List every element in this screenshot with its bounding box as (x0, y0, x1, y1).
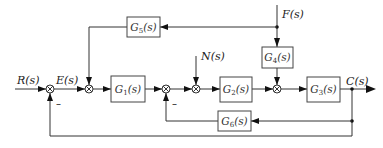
block-g1: G1(s) (111, 76, 145, 102)
arrow-icon (163, 93, 169, 101)
summing-junction-5 (273, 85, 281, 93)
svg-text:G5(s): G5(s) (130, 21, 156, 35)
arrow-icon (193, 77, 199, 85)
arrow-icon (47, 93, 53, 101)
svg-text:G3(s): G3(s) (310, 83, 336, 97)
arrow-icon (154, 86, 162, 92)
arrow-icon (274, 77, 280, 85)
arrow-icon (299, 86, 307, 92)
input-label: R(s) (16, 74, 40, 87)
arrow-icon (86, 77, 92, 85)
svg-text:G4(s): G4(s) (264, 51, 290, 65)
arrow-icon (160, 24, 168, 30)
summing-junction-2 (85, 85, 93, 93)
arrow-icon (265, 86, 273, 92)
minus-sign: – (172, 98, 177, 109)
block-g2: G2(s) (220, 77, 252, 102)
summing-junction-1 (46, 85, 54, 93)
arrow-icon (212, 86, 220, 92)
arrow-icon (251, 118, 259, 124)
summing-junction-4 (192, 85, 200, 93)
block-g3: G3(s) (307, 77, 340, 102)
arrow-icon (103, 86, 111, 92)
minus-sign: – (56, 98, 61, 109)
error-label: E(s) (55, 74, 78, 87)
arrow-icon (184, 86, 192, 92)
block-g4: G4(s) (262, 47, 293, 68)
summing-junction-3 (162, 85, 170, 93)
block-g6: G6(s) (218, 111, 251, 131)
disturbance-f-label: F(s) (281, 8, 304, 21)
block-diagram: G1(s) G2(s) G3(s) G4(s) G5(s) G6(s) R(s)… (0, 0, 383, 148)
block-g5: G5(s) (127, 17, 160, 37)
output-label: C(s) (346, 75, 369, 88)
svg-text:G6(s): G6(s) (221, 115, 247, 129)
arrow-icon (274, 38, 280, 47)
disturbance-n-label: N(s) (200, 50, 225, 63)
svg-text:G2(s): G2(s) (223, 83, 249, 97)
svg-text:G1(s): G1(s) (115, 83, 141, 97)
